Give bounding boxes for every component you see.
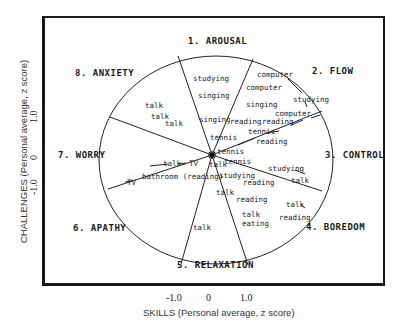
activity-label: TV [127,178,136,187]
x-axis-title: SKILLS (Personal average, z score) [143,307,295,318]
activity-label: talk [145,101,163,110]
activity-label: talk [193,223,211,232]
activity-label: talk [165,119,183,128]
activity-label: talk [286,200,304,209]
diagram-lines [0,0,402,330]
region-worry: 7. WORRY [58,150,105,160]
x-tick: -1.0 [166,292,182,303]
activity-label: talk [209,160,227,169]
y-tick: -1.0 [28,179,39,195]
activity-label: eating [242,219,269,228]
activity-label: tennis [210,133,237,142]
region-arousal: 1. AROUSAL [188,36,247,46]
region-boredom: 4. BOREDOM [306,222,365,232]
activity-label: computer [246,83,282,92]
activity-label: studying [293,95,329,104]
activity-label: reading [262,117,294,126]
activity-label: tennis [224,157,251,166]
activity-label: reading [256,137,288,146]
region-apathy: 6. APATHY [73,223,126,233]
activity-label: reading [279,213,311,222]
activity-label: computer [257,70,293,79]
activity-label: talk [242,210,260,219]
flow-model-diagram: 1. AROUSAL 2. FLOW 3. CONTROL 4. BOREDOM… [0,0,402,330]
activity-label: singing [198,91,230,100]
activity-label: studying [193,74,229,83]
region-relaxation: 5. RELAXATION [177,260,254,270]
y-axis-title: CHALLENGES (Personal average, z score) [18,60,29,243]
activity-label: singing [199,115,231,124]
activity-label: talk [163,159,181,168]
region-anxiety: 8. ANXIETY [75,68,134,78]
activity-label: tennis [248,127,275,136]
activity-label: tennis [217,147,244,156]
region-control: 3. CONTROL [325,150,384,160]
y-tick: 0 [28,155,39,160]
x-tick: 0 [206,292,211,303]
activity-label: reading [230,117,262,126]
activity-label: TV [189,159,198,168]
activity-label: singing [246,100,278,109]
activity-label: talk [291,176,309,185]
x-tick: 1.0 [240,292,253,303]
activity-label: studying [268,164,304,173]
activity-label: reading [243,178,275,187]
region-flow: 2. FLOW [312,66,353,76]
activity-label: bathroom (reading) [142,172,223,181]
activity-label: reading [236,195,268,204]
y-tick: 1.0 [28,111,39,124]
activity-label: talk [216,188,234,197]
